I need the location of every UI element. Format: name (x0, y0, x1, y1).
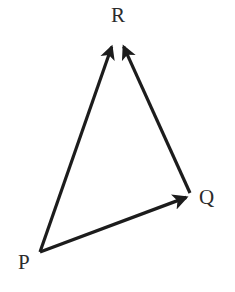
vertex-label-q: Q (199, 187, 214, 208)
vector-diagram-figure: P Q R (0, 0, 235, 292)
vector-diagram-canvas (0, 0, 235, 292)
vector-p-to-q (40, 197, 186, 252)
vertex-label-p: P (18, 252, 30, 273)
vector-q-to-r (124, 47, 190, 193)
vector-p-to-r (40, 47, 112, 252)
vertex-label-r: R (111, 5, 125, 26)
